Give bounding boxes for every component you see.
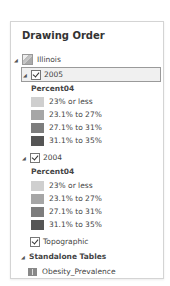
- legend-class-label: 23% or less: [49, 181, 93, 190]
- expander-icon[interactable]: ◢: [22, 72, 28, 78]
- legend-class-label: 31.1% to 35%: [49, 136, 102, 145]
- legend-field-heading: Percent04: [31, 165, 74, 178]
- legend-swatch: [31, 194, 44, 204]
- drawing-order-panel: Drawing Order ◢ Illinois ◢ 2005 Percent0…: [10, 21, 164, 279]
- legend-class: 23.1% to 27%: [31, 192, 102, 205]
- legend-class: 23% or less: [31, 95, 93, 108]
- legend-field-heading: Percent04: [31, 82, 74, 95]
- expander-icon[interactable]: ◢: [13, 57, 19, 63]
- legend-swatch: [31, 136, 44, 146]
- tree-item-standalone-tables[interactable]: ◢ Standalone Tables: [20, 250, 106, 263]
- visibility-checkbox[interactable]: [30, 153, 40, 163]
- legend-class-label: 31.1% to 35%: [49, 220, 102, 229]
- tree-item-table-obesity-prevalence[interactable]: Obesity_Prevalence: [28, 265, 116, 278]
- legend-class: 31.1% to 35%: [31, 218, 102, 231]
- legend-swatch: [31, 123, 44, 133]
- legend-class: 23% or less: [31, 179, 93, 192]
- legend-class: 27.1% to 31%: [31, 121, 102, 134]
- table-icon: [28, 268, 37, 276]
- tree-item-layer-topographic[interactable]: Topographic: [30, 235, 88, 248]
- legend-swatch: [31, 181, 44, 191]
- expander-icon[interactable]: ◢: [21, 155, 27, 161]
- legend-class-label: 23.1% to 27%: [49, 194, 102, 203]
- legend-swatch: [31, 97, 44, 107]
- tree-item-layer-2004[interactable]: ◢ 2004: [21, 151, 62, 164]
- legend-swatch: [31, 220, 44, 230]
- legend-class-label: 23% or less: [49, 97, 93, 106]
- legend-class: 31.1% to 35%: [31, 134, 102, 147]
- table-label: Obesity_Prevalence: [42, 267, 116, 276]
- legend-class: 27.1% to 31%: [31, 205, 102, 218]
- map-label: Illinois: [37, 55, 61, 64]
- legend-class-label: 27.1% to 31%: [49, 123, 102, 132]
- layer-label: 2005: [44, 70, 63, 79]
- layer-label: Topographic: [43, 237, 88, 246]
- legend-class-label: 27.1% to 31%: [49, 207, 102, 216]
- group-label: Standalone Tables: [29, 252, 106, 261]
- layer-label: 2004: [43, 153, 62, 162]
- legend-swatch: [31, 110, 44, 120]
- visibility-checkbox[interactable]: [30, 237, 40, 247]
- legend-class: 23.1% to 27%: [31, 108, 102, 121]
- map-icon: [22, 54, 33, 65]
- tree-item-layer-2005[interactable]: ◢ 2005: [21, 67, 161, 82]
- expander-icon[interactable]: ◢: [20, 254, 26, 260]
- tree-item-illinois[interactable]: ◢ Illinois: [13, 53, 61, 66]
- legend-swatch: [31, 207, 44, 217]
- legend-class-label: 23.1% to 27%: [49, 110, 102, 119]
- panel-title: Drawing Order: [22, 30, 105, 41]
- visibility-checkbox[interactable]: [31, 70, 41, 80]
